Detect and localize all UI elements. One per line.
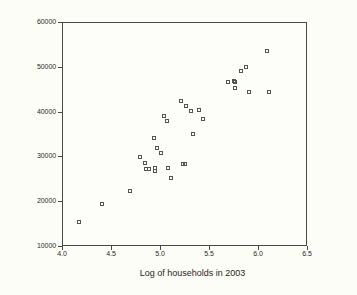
scatter-plot-figure: editorial content in sq inches Log of ho… [0,0,357,295]
data-point [128,189,132,193]
y-tick-mark [58,67,62,68]
data-point [147,167,151,171]
y-tick-label: 10000 [37,242,56,249]
x-tick-label: 5.5 [204,250,214,257]
data-point [166,166,170,170]
x-tick-label: 4.0 [57,250,67,257]
data-point [184,104,188,108]
data-point [169,176,173,180]
data-point [152,136,156,140]
data-point [179,99,183,103]
y-tick-label: 30000 [37,152,56,159]
y-tick-mark [58,22,62,23]
data-point [239,69,243,73]
y-tick-label: 60000 [37,18,56,25]
x-tick-label: 4.5 [106,250,116,257]
x-tick-label: 5.0 [155,250,165,257]
data-point [183,162,187,166]
data-points-layer [63,23,306,245]
data-point [197,108,201,112]
data-point [244,65,248,69]
data-point [138,155,142,159]
x-axis-label: Log of households in 2003 [0,268,357,278]
data-point [233,86,237,90]
data-point [153,169,157,173]
data-point [77,220,81,224]
data-point [162,114,166,118]
data-point [165,119,169,123]
data-point [247,90,251,94]
data-point [226,80,230,84]
data-point [155,146,159,150]
data-point [143,161,147,165]
data-point [159,151,163,155]
x-tick-label: 6.0 [253,250,263,257]
data-point [265,49,269,53]
plot-area [62,22,307,246]
y-tick-mark [58,112,62,113]
data-point [189,109,193,113]
data-point [201,117,205,121]
data-point [267,90,271,94]
y-tick-label: 40000 [37,108,56,115]
y-tick-label: 20000 [37,197,56,204]
data-point [100,202,104,206]
data-point [233,80,237,84]
y-tick-mark [58,201,62,202]
y-tick-label: 50000 [37,63,56,70]
y-tick-mark [58,156,62,157]
data-point [191,132,195,136]
x-tick-label: 6.5 [302,250,312,257]
